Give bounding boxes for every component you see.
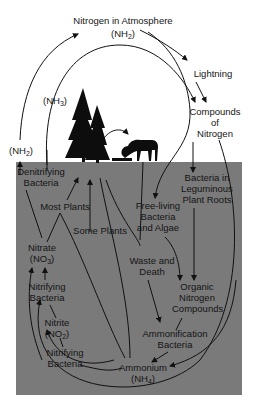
label-nitrite: Nitrite (NO2): [37, 317, 77, 339]
formula-prefix: (NH: [43, 95, 60, 106]
arrow-ammonification-to-ammonium: [152, 352, 168, 362]
formula-suffix: ): [152, 373, 155, 384]
ammonification-line-1: Ammonification: [142, 328, 208, 339]
label-some-plants: Some Plants: [72, 225, 128, 236]
formula-prefix: (NH: [111, 28, 128, 39]
arrow-waste-to-ammonification: [148, 280, 160, 322]
free-living-line-1: Free-living: [133, 200, 183, 211]
arrow-denitrifying-to-nitrate: [26, 190, 42, 238]
denitrifying-line-2: Bacteria: [12, 177, 70, 188]
label-nitrifying-2: Nitrifying Bacteria: [40, 347, 90, 369]
label-organic: Organic Nitrogen Compounds: [172, 281, 222, 314]
compounds-line-2: of: [188, 117, 242, 128]
label-compounds: Compounds of Nitrogen: [188, 106, 242, 139]
label-atmosphere-formula: (NH2): [100, 28, 146, 39]
ammonification-line-2: Bacteria: [142, 339, 208, 350]
nitrite-text: Nitrite: [37, 317, 77, 328]
nitrifying-2-line-2: Bacteria: [40, 358, 90, 369]
formula-prefix: (NO: [45, 328, 62, 339]
leguminous-line-1: Bacteria in: [180, 172, 234, 183]
compounds-line-1: Compounds: [188, 106, 242, 117]
formula-prefix: (NH: [9, 145, 26, 156]
nitrate-text: Nitrate: [22, 242, 62, 253]
nitrifying-1-line-1: Nitrifying: [22, 281, 72, 292]
label-nh3: (NH3): [40, 95, 70, 106]
waste-line-2: Death: [127, 266, 177, 277]
label-denitrifying: Denitrifying Bacteria: [12, 166, 70, 188]
formula-suffix: ): [30, 145, 33, 156]
label-free-living: Free-living Bacteria and Algae: [133, 200, 183, 233]
free-living-line-3: and Algae: [133, 222, 183, 233]
label-leguminous: Bacteria in Leguminous Plant Roots: [180, 172, 234, 205]
organic-line-2: Nitrogen: [172, 292, 222, 303]
formula-suffix: ): [132, 28, 135, 39]
cycle-arrows: [0, 0, 254, 410]
nitrogen-cycle-diagram: Nitrogen in Atmosphere (NH2) (NH3) (NH2)…: [0, 0, 254, 410]
formula-prefix: (NO: [30, 253, 47, 264]
nitrifying-2-line-1: Nitrifying: [40, 347, 90, 358]
label-lightning: Lightning: [188, 68, 238, 79]
label-nh2-left: (NH2): [6, 145, 36, 156]
nitrate-formula: (NO3): [22, 253, 62, 264]
organic-line-3: Compounds: [172, 303, 222, 314]
label-ammonification: Ammonification Bacteria: [142, 328, 208, 350]
nitrifying-1-line-2: Bacteria: [22, 292, 72, 303]
label-ammonium: Ammonium (NH4): [115, 362, 171, 384]
atmosphere-text: Nitrogen in Atmosphere: [73, 15, 172, 26]
label-waste: Waste and Death: [127, 255, 177, 277]
tree-icon: [65, 88, 110, 163]
label-atmosphere: Nitrogen in Atmosphere: [58, 15, 188, 26]
organic-line-1: Organic: [172, 281, 222, 292]
formula-suffix: ): [66, 328, 69, 339]
formula-prefix: (NH: [131, 373, 148, 384]
leguminous-line-2: Leguminous: [180, 183, 234, 194]
denitrifying-line-1: Denitrifying: [12, 166, 70, 177]
label-nitrate: Nitrate (NO3): [22, 242, 62, 264]
arrow-plants-to-animals: [104, 130, 128, 138]
waste-line-1: Waste and: [127, 255, 177, 266]
arrow-lightning-to-compounds: [196, 82, 206, 102]
deer-icon: [112, 140, 158, 161]
nitrite-formula: (NO2): [37, 328, 77, 339]
formula-suffix: ): [64, 95, 67, 106]
ammonium-text: Ammonium: [115, 362, 171, 373]
arrow-nitrate-to-most-plants: [47, 213, 60, 242]
label-most-plants: Most Plants: [40, 201, 90, 212]
arrow-plants-to-ammonium: [100, 178, 130, 358]
formula-suffix: ): [51, 253, 54, 264]
free-living-line-2: Bacteria: [133, 211, 183, 222]
label-nitrifying-1: Nitrifying Bacteria: [22, 281, 72, 303]
ammonium-formula: (NH4): [115, 373, 171, 384]
compounds-line-3: Nitrogen: [188, 128, 242, 139]
arrow-nh2-to-atmosphere: [20, 34, 78, 140]
leguminous-line-3: Plant Roots: [180, 194, 234, 205]
